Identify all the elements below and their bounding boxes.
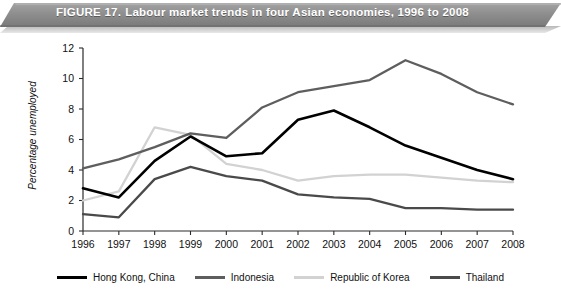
figure-title: FIGURE 17.Labour market trends in four A… [56,6,469,18]
y-tick-label: 0 [68,225,74,237]
x-tick-label: 1996 [71,238,95,250]
x-tick-label: 1998 [143,238,167,250]
legend-item[interactable]: Republic of Korea [294,272,410,283]
x-tick-label: 2000 [215,238,239,250]
legend-label: Thailand [466,272,504,283]
figure-title-text: Labour market trends in four Asian econo… [125,6,469,18]
chart-plot-area: Percentage unemployed 024681012 19961997… [0,34,561,264]
legend-label: Indonesia [231,272,274,283]
y-tick-label: 4 [68,164,74,176]
x-tick-label: 2005 [394,238,418,250]
legend-item[interactable]: Hong Kong, China [57,272,175,283]
series-line [83,167,513,217]
y-tick-label: 12 [62,42,74,54]
series-line [83,127,513,200]
legend-item[interactable]: Thailand [430,272,504,283]
x-tick-label: 2003 [322,238,346,250]
x-axis-tick-labels: 1996199719981999200020012002200320042005… [71,238,525,250]
x-tick-label: 2008 [501,238,525,250]
y-tick-label: 10 [62,72,74,84]
series-line [83,111,513,198]
page-bottom-edge [0,296,561,302]
data-series-group [83,60,513,217]
chart-legend: Hong Kong, ChinaIndonesiaRepublic of Kor… [0,264,561,290]
x-tick-label: 2004 [358,238,382,250]
legend-swatch-icon [195,276,225,279]
legend-label: Republic of Korea [330,272,410,283]
x-tick-label: 1997 [107,238,131,250]
figure-banner: FIGURE 17.Labour market trends in four A… [0,0,561,34]
x-tick-label: 2002 [286,238,310,250]
legend-item[interactable]: Indonesia [195,272,274,283]
series-line [83,60,513,168]
x-tick-label: 2001 [250,238,274,250]
x-axis-tick-marks [83,231,513,235]
y-axis-tick-labels: 024681012 [62,42,74,237]
legend-swatch-icon [57,276,87,279]
x-tick-label: 2007 [465,238,489,250]
x-tick-label: 1999 [179,238,203,250]
y-tick-label: 8 [68,103,74,115]
y-tick-label: 2 [68,194,74,206]
legend-swatch-icon [430,276,460,279]
legend-swatch-icon [294,276,324,279]
legend-label: Hong Kong, China [93,272,175,283]
y-tick-label: 6 [68,133,74,145]
x-tick-label: 2006 [430,238,454,250]
line-chart: 024681012 199619971998199920002001200220… [0,34,561,264]
figure-number: FIGURE 17. [56,6,121,18]
